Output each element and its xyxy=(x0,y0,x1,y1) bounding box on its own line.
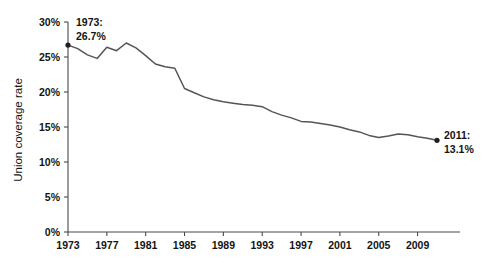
y-tick-label: 10% xyxy=(39,156,61,168)
chart-container: 0%5%10%15%20%25%30% 19731977198119851989… xyxy=(0,0,492,267)
y-axis-ticks xyxy=(64,22,68,232)
data-series-group xyxy=(68,43,437,140)
series-line-union-coverage-rate xyxy=(68,43,437,140)
x-tick-label: 1973 xyxy=(56,239,80,251)
y-tick-label: 0% xyxy=(45,226,61,238)
x-tick-label: 1993 xyxy=(251,239,275,251)
x-tick-label: 1985 xyxy=(173,239,197,251)
x-axis-tick-labels: 1973197719811985198919931997200120052009 xyxy=(56,239,429,251)
y-tick-label: 25% xyxy=(39,51,61,63)
y-axis-title: Union coverage rate xyxy=(12,78,24,182)
x-tick-label: 1981 xyxy=(134,239,158,251)
x-tick-label: 1977 xyxy=(95,239,119,251)
end-annotation-line2: 13.1% xyxy=(444,143,474,155)
y-tick-label: 30% xyxy=(39,16,61,28)
x-tick-label: 1997 xyxy=(289,239,313,251)
start-annotation-marker xyxy=(65,43,70,48)
y-axis-group: 0%5%10%15%20%25%30% xyxy=(39,16,68,238)
y-axis-tick-labels: 0%5%10%15%20%25%30% xyxy=(39,16,61,238)
annotation-layer: 1973: 26.7% 2011: 13.1% xyxy=(65,16,474,155)
x-tick-label: 2001 xyxy=(328,239,352,251)
x-axis-ticks xyxy=(68,232,418,236)
x-tick-label: 2009 xyxy=(406,239,430,251)
start-annotation-line1: 1973: xyxy=(76,16,103,28)
start-annotation-line2: 26.7% xyxy=(76,30,106,42)
x-tick-label: 2005 xyxy=(367,239,391,251)
end-annotation-marker xyxy=(434,138,439,143)
end-annotation-line1: 2011: xyxy=(444,129,470,141)
x-tick-label: 1989 xyxy=(212,239,236,251)
line-chart: 0%5%10%15%20%25%30% 19731977198119851989… xyxy=(0,0,492,267)
y-tick-label: 5% xyxy=(45,191,61,203)
y-tick-label: 20% xyxy=(39,86,61,98)
y-tick-label: 15% xyxy=(39,121,61,133)
x-axis-group: 1973197719811985198919931997200120052009 xyxy=(56,232,460,251)
